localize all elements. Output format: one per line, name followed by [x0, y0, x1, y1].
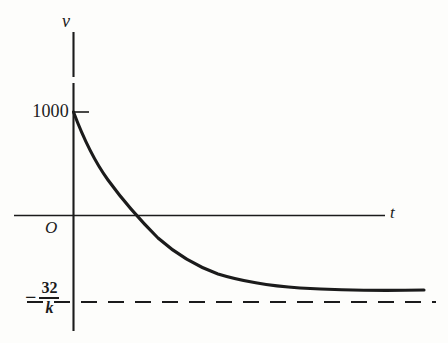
graph-plot-area: [0, 0, 448, 343]
v-axis-label: v: [62, 12, 70, 30]
fraction-32-over-k: 32 k: [39, 280, 59, 316]
velocity-decay-curve: [74, 112, 425, 290]
origin-label: O: [45, 219, 57, 236]
minus-sign: −: [25, 287, 36, 307]
t-axis-label: t: [390, 204, 395, 221]
figure-container: v t O 1000 − 32 k: [0, 0, 448, 343]
asymptote-label: − 32 k: [25, 280, 59, 316]
y-tick-label-1000: 1000: [32, 102, 69, 120]
fraction-numerator: 32: [39, 280, 59, 297]
fraction-denominator: k: [43, 299, 55, 316]
